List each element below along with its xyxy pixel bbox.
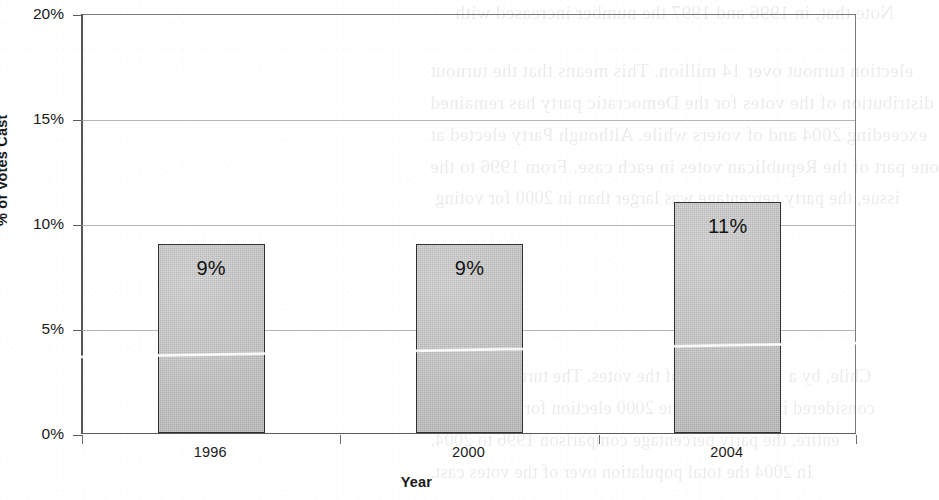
y-axis-tick-label: 10%: [33, 215, 64, 233]
x-axis-tick-mark: [340, 435, 341, 444]
x-axis-tick-mark-origin: [82, 435, 83, 444]
x-axis-tick-label-2000: 2000: [452, 444, 485, 460]
x-axis-tick-mark: [599, 435, 600, 444]
plot-area: 9%9%11%: [81, 14, 856, 434]
y-axis-tick-label: 20%: [33, 5, 64, 23]
x-axis-title: Year: [0, 474, 865, 490]
x-axis-title-text: Year: [401, 474, 432, 490]
y-axis-tick-label: 15%: [33, 110, 64, 128]
bar-2004[interactable]: 11%: [674, 202, 781, 433]
y-axis-tick-mark: [73, 435, 82, 436]
bar-2000[interactable]: 9%: [416, 244, 523, 433]
y-axis-tick-mark: [73, 225, 82, 226]
y-axis-tick-labels: 20%15%10%5%0%: [0, 0, 72, 500]
bar-value-label: 11%: [675, 215, 780, 238]
y-axis-tick-mark: [73, 120, 82, 121]
bar-value-label: 9%: [159, 257, 264, 280]
y-axis-title: % of Votes Cast: [0, 114, 10, 226]
bar-value-label: 9%: [417, 257, 522, 280]
y-axis-tick-mark: [73, 330, 82, 331]
bar-1996[interactable]: 9%: [158, 244, 265, 433]
y-axis-tick-label: 0%: [42, 425, 64, 443]
y-axis-tick-mark: [73, 15, 82, 16]
x-axis-tick-mark: [856, 435, 857, 444]
y-axis-tick-label: 5%: [42, 320, 64, 338]
y-gridline: [82, 120, 855, 121]
x-axis-tick-label-2004: 2004: [710, 444, 743, 460]
x-axis-tick-label-1996: 1996: [194, 444, 227, 460]
